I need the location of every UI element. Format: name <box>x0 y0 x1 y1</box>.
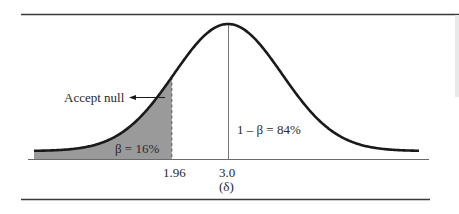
tick-label-delta: (δ) <box>219 180 234 193</box>
accept-null-label: Accept null <box>64 91 124 104</box>
power-label: 1 – β = 84% <box>237 123 301 136</box>
tick-label-center: 3.0 <box>219 166 235 179</box>
beta-label: β = 16% <box>115 142 159 155</box>
tick-label-critical: 1.96 <box>163 166 186 179</box>
normal-distribution-curve <box>34 24 419 151</box>
page-edge-strip <box>455 15 459 97</box>
